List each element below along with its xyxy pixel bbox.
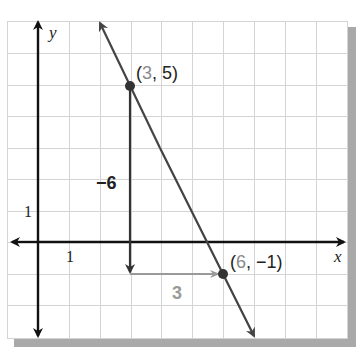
x-tick-label: 1: [66, 248, 74, 265]
run-label: 3: [172, 283, 182, 303]
y-tick-label: 1: [24, 203, 32, 220]
coordinate-graph: y x 1 1 (3, 5) (6, −1) −6 3: [0, 0, 357, 354]
point-b-label: (6, −1): [230, 252, 283, 272]
y-axis-label: y: [47, 23, 57, 42]
point-b-dot: [218, 269, 228, 279]
x-axis-label: x: [333, 247, 342, 266]
point-a-label: (3, 5): [136, 63, 178, 83]
rise-label: −6: [96, 173, 117, 193]
point-a-dot: [125, 81, 135, 91]
